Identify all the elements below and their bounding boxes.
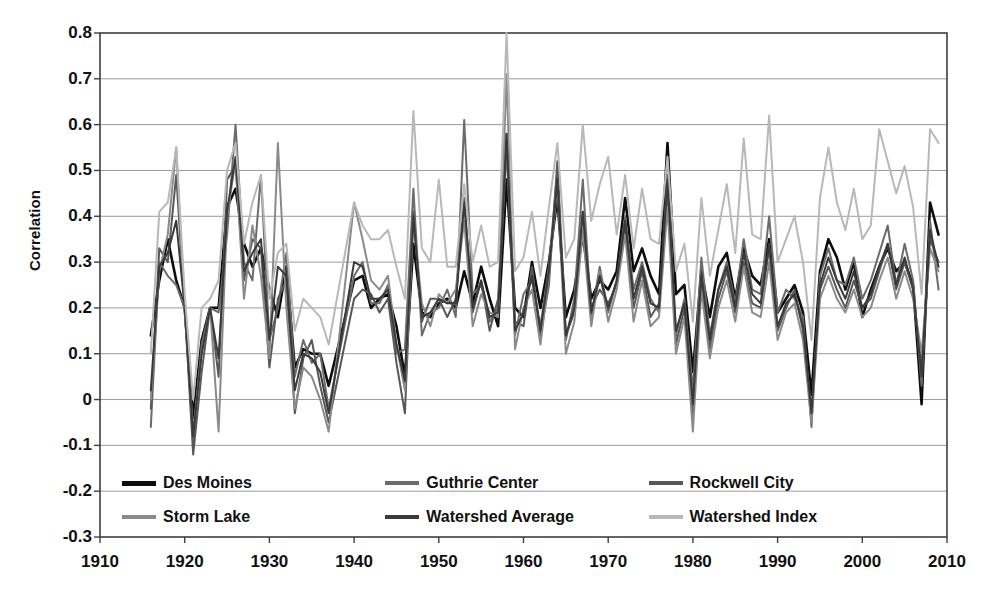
legend-swatch-icon [122, 515, 156, 519]
legend-item-2[interactable]: Rockwell City [649, 466, 912, 500]
legend-swatch-icon [385, 515, 419, 519]
series-line-3 [151, 74, 939, 431]
x-tick-marks [100, 537, 947, 543]
legend-label: Des Moines [163, 474, 252, 492]
x-tick-label: 1950 [399, 552, 479, 572]
y-tick-marks [94, 33, 100, 537]
x-tick-label: 2000 [822, 552, 902, 572]
legend-label: Guthrie Center [426, 474, 538, 492]
x-tick-label: 1940 [314, 552, 394, 572]
legend-item-4[interactable]: Watershed Average [385, 500, 648, 534]
legend-swatch-icon [385, 481, 419, 485]
x-tick-label: 1920 [145, 552, 225, 572]
x-tick-label: 1980 [653, 552, 733, 572]
legend-swatch-icon [649, 515, 683, 519]
data-series-group [151, 33, 939, 455]
legend-swatch-icon [649, 481, 683, 485]
x-tick-label: 1960 [484, 552, 564, 572]
legend-item-1[interactable]: Guthrie Center [385, 466, 648, 500]
legend-label: Watershed Average [426, 508, 574, 526]
chart-legend: Des MoinesGuthrie CenterRockwell CitySto… [122, 466, 912, 534]
x-tick-label: 1930 [229, 552, 309, 572]
legend-item-5[interactable]: Watershed Index [649, 500, 912, 534]
legend-label: Storm Lake [163, 508, 250, 526]
legend-label: Watershed Index [690, 508, 817, 526]
legend-swatch-icon [122, 481, 156, 486]
legend-item-0[interactable]: Des Moines [122, 466, 385, 500]
x-tick-label: 1910 [60, 552, 140, 572]
x-tick-label: 1970 [568, 552, 648, 572]
legend-item-3[interactable]: Storm Lake [122, 500, 385, 534]
correlation-chart: Correlation 0.80.70.60.50.40.30.20.10-0.… [0, 0, 987, 615]
x-tick-label: 1990 [738, 552, 818, 572]
x-tick-label: 2010 [907, 552, 987, 572]
legend-label: Rockwell City [690, 474, 794, 492]
